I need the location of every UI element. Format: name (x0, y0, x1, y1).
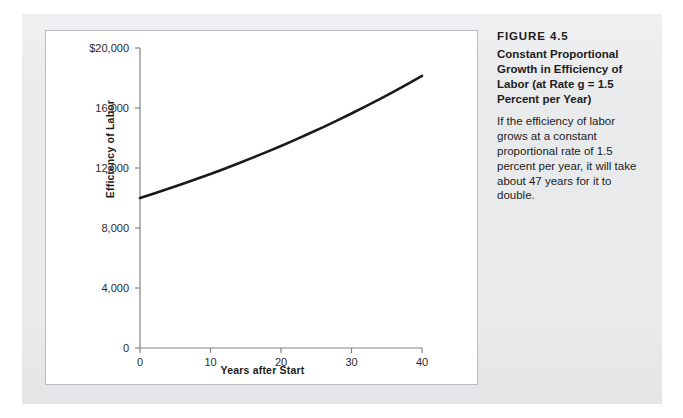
x-tick-label: 10 (181, 356, 241, 368)
growth-curve (140, 76, 422, 198)
plot-canvas (46, 31, 479, 386)
x-tick-label: 30 (322, 356, 382, 368)
y-tick-label: 16,000 (39, 102, 129, 114)
y-tick-label: 0 (39, 342, 129, 354)
x-tick-label: 20 (251, 356, 311, 368)
x-tick-marks (140, 348, 422, 353)
y-tick-label: $20,000 (39, 42, 129, 54)
y-tick-label: 8,000 (39, 222, 129, 234)
x-tick-label: 0 (110, 356, 170, 368)
y-tick-label: 12,000 (39, 162, 129, 174)
figure-number: FIGURE 4.5 (497, 30, 645, 42)
figure-description: If the efficiency of labor grows at a co… (497, 114, 645, 204)
chart-card: Efficiency of Labor Years after Start 04… (45, 30, 478, 385)
figure-root: Efficiency of Labor Years after Start 04… (0, 0, 683, 418)
x-tick-label: 40 (392, 356, 452, 368)
figure-title: Constant Proportional Growth in Efficien… (497, 47, 645, 107)
figure-caption: FIGURE 4.5 Constant Proportional Growth … (497, 30, 645, 203)
y-tick-label: 4,000 (39, 282, 129, 294)
